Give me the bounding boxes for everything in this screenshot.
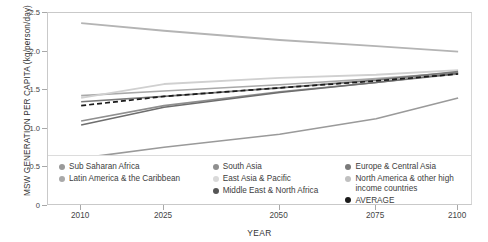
y-tick-mark <box>42 205 47 206</box>
legend-item[interactable]: Middle East & North Africa <box>213 186 346 196</box>
legend-item[interactable]: Europe & Central Asia <box>345 162 471 172</box>
legend-item-label: AVERAGE <box>355 196 394 206</box>
x-tick-label: 2100 <box>448 211 466 220</box>
series-line <box>81 23 458 52</box>
y-axis-title: MSW GENERATION PER CAPITA (kg/person/day… <box>23 0 32 206</box>
legend-swatch-icon <box>213 164 219 170</box>
legend-item[interactable]: South Asia <box>213 162 346 172</box>
legend-swatch-icon <box>213 188 219 194</box>
legend-item-label: Sub Saharan Africa <box>69 162 140 172</box>
legend-swatch-icon <box>59 164 65 170</box>
y-tick-label: 2.0 <box>0 46 40 55</box>
legend-swatch-icon <box>345 197 351 203</box>
legend-item-label: South Asia <box>223 162 262 172</box>
legend-column-1: Sub Saharan AfricaLatin America & the Ca… <box>59 162 210 184</box>
legend-item[interactable]: Latin America & the Caribbean <box>59 174 210 184</box>
series-line <box>81 72 458 95</box>
legend-swatch-icon <box>345 176 351 182</box>
y-tick-label: 1.0 <box>0 123 40 132</box>
series-line <box>81 98 458 158</box>
x-tick-label: 2050 <box>270 211 288 220</box>
legend-item[interactable]: Sub Saharan Africa <box>59 162 210 172</box>
legend-column-2: South AsiaEast Asia & PacificMiddle East… <box>213 162 346 196</box>
legend-swatch-icon <box>345 164 351 170</box>
x-tick-label: 2025 <box>154 211 172 220</box>
y-tick-label: 2.5 <box>0 8 40 17</box>
legend-item-label: Latin America & the Caribbean <box>69 174 180 184</box>
y-tick-label: 0.5 <box>0 162 40 171</box>
chart-figure: MSW GENERATION PER CAPITA (kg/person/day… <box>0 0 488 242</box>
chart-legend: Sub Saharan AfricaLatin America & the Ca… <box>48 155 471 204</box>
legend-swatch-icon <box>213 176 219 182</box>
legend-column-3: Europe & Central AsiaNorth America & oth… <box>345 162 471 205</box>
x-tick-label: 2075 <box>366 211 384 220</box>
legend-swatch-icon <box>59 176 65 182</box>
x-axis-title: YEAR <box>47 228 472 238</box>
legend-item[interactable]: North America & other high income countr… <box>345 174 471 193</box>
legend-item-label: North America & other high income countr… <box>355 174 459 193</box>
legend-item[interactable]: East Asia & Pacific <box>213 174 346 184</box>
legend-item[interactable]: AVERAGE <box>345 196 471 206</box>
legend-item-label: Middle East & North Africa <box>223 186 319 196</box>
legend-item-label: East Asia & Pacific <box>223 174 291 184</box>
y-tick-label: 0 <box>0 201 40 210</box>
legend-item-label: Europe & Central Asia <box>355 162 436 172</box>
x-tick-label: 2010 <box>71 211 89 220</box>
y-tick-label: 1.5 <box>0 85 40 94</box>
